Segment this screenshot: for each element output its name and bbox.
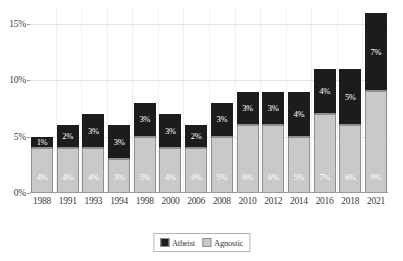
bar-group[interactable]: 4%7%: [314, 8, 336, 193]
bar-segment-agnostic[interactable]: 6%: [237, 125, 259, 193]
bar-value-label: 3%: [165, 127, 176, 136]
bar-segment-atheist[interactable]: 4%: [288, 92, 310, 137]
bar-value-label: 5%: [345, 93, 356, 102]
bar-value-label: 3%: [242, 104, 253, 113]
bar-segment-atheist[interactable]: 3%: [211, 103, 233, 137]
bar-value-label: 2%: [62, 132, 73, 141]
bar-value-label: 3%: [114, 173, 125, 182]
bar-segment-atheist[interactable]: 3%: [82, 114, 104, 148]
bar-group[interactable]: 2%4%: [57, 8, 79, 193]
bar-segment-agnostic[interactable]: 7%: [314, 114, 336, 193]
stacked-bar-chart: 0%5%10%15% 1%4%2%4%3%4%3%3%3%5%3%4%2%4%3…: [0, 0, 403, 261]
plot-area: 1%4%2%4%3%4%3%3%3%5%3%4%2%4%3%5%3%6%3%6%…: [30, 8, 388, 193]
bar-value-label: 4%: [191, 173, 202, 182]
x-axis-tick-label: 1993: [82, 196, 104, 212]
bar-value-label: 4%: [37, 173, 48, 182]
x-axis-tick-label: 1988: [31, 196, 53, 212]
bar-series-container: 1%4%2%4%3%4%3%3%3%5%3%4%2%4%3%5%3%6%3%6%…: [30, 8, 388, 193]
y-axis-tick-mark: [27, 193, 30, 194]
x-axis-tick-label: 2014: [288, 196, 310, 212]
bar-value-label: 4%: [319, 87, 330, 96]
bar-value-label: 3%: [139, 115, 150, 124]
legend-item[interactable]: Agnostic: [202, 238, 243, 248]
x-axis-tick-label: 2012: [262, 196, 284, 212]
bar-group[interactable]: 3%3%: [108, 8, 130, 193]
bar-segment-atheist[interactable]: 3%: [134, 103, 156, 137]
legend-label: Atheist: [172, 238, 195, 248]
bar-value-label: 5%: [294, 173, 305, 182]
x-axis-tick-label: 2000: [159, 196, 181, 212]
bar-value-label: 4%: [88, 173, 99, 182]
bar-segment-agnostic[interactable]: 5%: [134, 137, 156, 193]
legend-item[interactable]: Atheist: [160, 238, 195, 248]
bar-group[interactable]: 2%4%: [185, 8, 207, 193]
bar-value-label: 4%: [294, 110, 305, 119]
x-axis-labels: 1988199119931994199820002006200820102012…: [30, 196, 388, 212]
x-axis-tick-label: 2021: [365, 196, 387, 212]
bar-value-label: 9%: [371, 173, 382, 182]
bar-group[interactable]: 3%6%: [262, 8, 284, 193]
bar-value-label: 3%: [268, 104, 279, 113]
x-axis-tick-label: 2018: [339, 196, 361, 212]
bar-segment-atheist[interactable]: 3%: [237, 92, 259, 126]
bar-segment-atheist[interactable]: 1%: [31, 137, 53, 148]
bar-value-label: 7%: [319, 173, 330, 182]
bar-segment-agnostic[interactable]: 6%: [262, 125, 284, 193]
bar-group[interactable]: 5%6%: [339, 8, 361, 193]
legend-label: Agnostic: [214, 238, 243, 248]
legend-swatch: [160, 238, 169, 247]
bar-group[interactable]: 3%5%: [134, 8, 156, 193]
bar-segment-atheist[interactable]: 7%: [365, 13, 387, 92]
y-axis-tick-label: 10%: [9, 75, 26, 85]
y-axis-tick-label: 0%: [14, 188, 26, 198]
bar-value-label: 6%: [242, 173, 253, 182]
bar-segment-agnostic[interactable]: 6%: [339, 125, 361, 193]
y-axis-tick-label: 5%: [14, 132, 26, 142]
x-axis-tick-label: 2006: [185, 196, 207, 212]
x-axis-tick-label: 1994: [108, 196, 130, 212]
bar-value-label: 5%: [139, 173, 150, 182]
bar-group[interactable]: 3%5%: [211, 8, 233, 193]
bar-value-label: 6%: [345, 173, 356, 182]
bar-segment-atheist[interactable]: 3%: [159, 114, 181, 148]
bar-segment-agnostic[interactable]: 4%: [57, 148, 79, 193]
bar-value-label: 7%: [371, 48, 382, 57]
bar-segment-atheist[interactable]: 2%: [57, 125, 79, 148]
bar-segment-atheist[interactable]: 3%: [108, 125, 130, 159]
bar-segment-agnostic[interactable]: 4%: [159, 148, 181, 193]
y-axis: 0%5%10%15%: [0, 0, 30, 193]
bar-value-label: 3%: [88, 127, 99, 136]
bar-value-label: 2%: [191, 132, 202, 141]
x-axis-tick-label: 2008: [211, 196, 233, 212]
x-axis-tick-label: 1998: [134, 196, 156, 212]
chart-legend: AtheistAgnostic: [153, 233, 250, 252]
bar-segment-agnostic[interactable]: 4%: [185, 148, 207, 193]
bar-segment-agnostic[interactable]: 4%: [82, 148, 104, 193]
x-axis-tick-label: 2010: [237, 196, 259, 212]
bar-group[interactable]: 3%4%: [82, 8, 104, 193]
bar-group[interactable]: 3%4%: [159, 8, 181, 193]
bar-segment-atheist[interactable]: 5%: [339, 69, 361, 125]
bar-segment-agnostic[interactable]: 5%: [211, 137, 233, 193]
bar-segment-atheist[interactable]: 3%: [262, 92, 284, 126]
legend-swatch: [202, 238, 211, 247]
bar-segment-agnostic[interactable]: 3%: [108, 159, 130, 193]
bar-group[interactable]: 3%6%: [237, 8, 259, 193]
x-axis-line: [30, 192, 388, 193]
bar-value-label: 3%: [216, 115, 227, 124]
bar-segment-agnostic[interactable]: 5%: [288, 137, 310, 193]
bar-value-label: 1%: [37, 138, 48, 147]
bar-value-label: 3%: [114, 138, 125, 147]
bar-segment-atheist[interactable]: 4%: [314, 69, 336, 114]
bar-group[interactable]: 7%9%: [365, 8, 387, 193]
x-axis-tick-label: 2016: [314, 196, 336, 212]
x-axis-tick-label: 1991: [57, 196, 79, 212]
bar-group[interactable]: 4%5%: [288, 8, 310, 193]
y-axis-tick-label: 15%: [9, 19, 26, 29]
bar-value-label: 4%: [62, 173, 73, 182]
bar-value-label: 4%: [165, 173, 176, 182]
bar-group[interactable]: 1%4%: [31, 8, 53, 193]
bar-segment-atheist[interactable]: 2%: [185, 125, 207, 148]
bar-segment-agnostic[interactable]: 9%: [365, 91, 387, 193]
bar-segment-agnostic[interactable]: 4%: [31, 148, 53, 193]
